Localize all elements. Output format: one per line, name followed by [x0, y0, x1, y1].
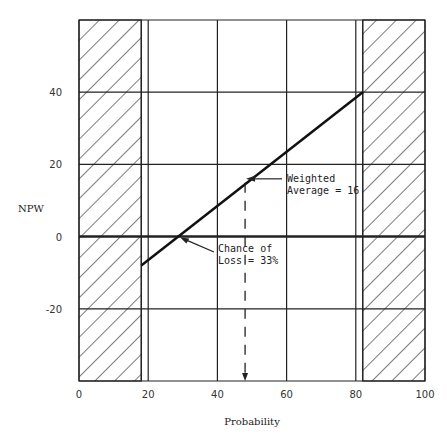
y-tick-label: 40	[49, 87, 62, 98]
dashed-marker-arrow	[242, 373, 248, 381]
x-tick-label: 20	[142, 389, 155, 400]
hatched-region-excluded-low	[79, 20, 141, 381]
y-axis-label: NPW	[18, 203, 44, 214]
x-tick-label: 60	[280, 389, 293, 400]
chance-of-loss-pointer	[185, 240, 214, 252]
x-axis-label: Probability	[224, 416, 280, 427]
x-tick-label: 100	[415, 389, 434, 400]
chance-of-loss-label: Loss = 33%	[218, 255, 278, 266]
hatched-region-excluded-high	[363, 20, 425, 381]
chance-of-loss-arrowhead	[180, 238, 189, 244]
y-tick-label: 20	[49, 159, 62, 170]
chance-of-loss-label: Chance of	[218, 243, 272, 254]
chart: 02040608010040200-20ProbabilityNPWWeight…	[0, 0, 447, 438]
x-tick-label: 40	[211, 389, 224, 400]
y-tick-label: 0	[56, 232, 62, 243]
x-tick-label: 0	[76, 389, 82, 400]
x-tick-label: 80	[349, 389, 362, 400]
weighted-average-label: Average = 16	[287, 185, 359, 196]
weighted-average-label: Weighted	[287, 173, 335, 184]
y-tick-label: -20	[46, 304, 62, 315]
